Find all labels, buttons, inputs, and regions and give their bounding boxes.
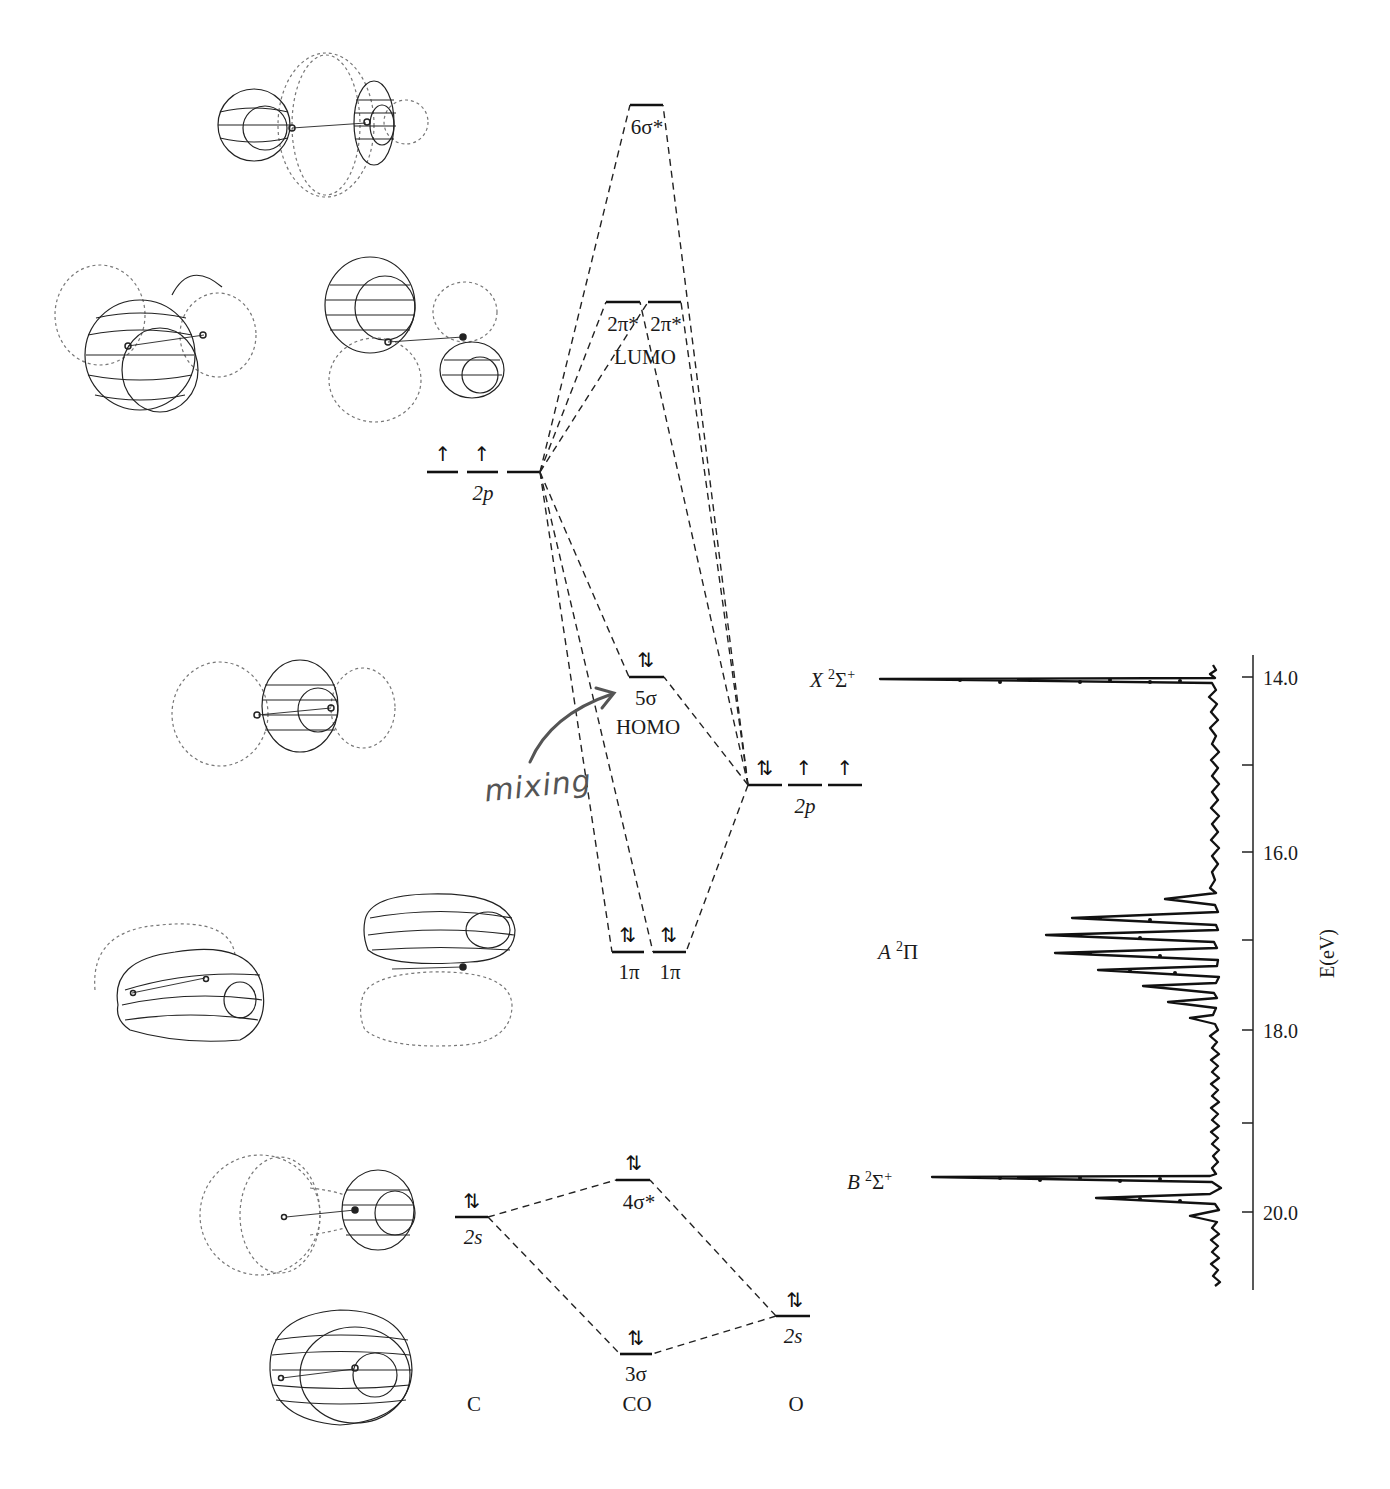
mo-label-1pi-a: 1π [618, 962, 639, 983]
state-parity: + [884, 1169, 892, 1184]
state-term: Σ [872, 1170, 884, 1194]
orbital-3sigma-drawing [270, 1310, 412, 1425]
axis-tick-label: 20.0 [1263, 1203, 1298, 1223]
mo-label-4sigma-star: 4σ* [623, 1192, 655, 1213]
electron-pair-arrow: ⇅ [638, 650, 655, 670]
axis-tick-label: 18.0 [1263, 1021, 1298, 1041]
orbital-1pi-b-drawing [361, 894, 515, 1046]
orbital-2pi-star-b-drawing [325, 257, 504, 422]
ao-label-c-2s: 2s [464, 1227, 483, 1248]
orbital-1pi-a-drawing [95, 924, 264, 1041]
state-label-x: X 2Σ+ [810, 668, 855, 691]
column-label-co: CO [622, 1394, 651, 1415]
photoelectron-spectrum-trace [880, 665, 1221, 1286]
mo-label-5sigma: 5σ [635, 688, 657, 709]
diagram-canvas [0, 0, 1390, 1489]
column-label-c: C [467, 1394, 481, 1415]
electron-pair-arrow: ⇅ [661, 925, 678, 945]
state-symbol: B [847, 1170, 860, 1194]
energy-axis [1242, 655, 1253, 1290]
ao-label-o-2p: 2p [795, 796, 816, 817]
state-parity: + [847, 667, 855, 682]
axis-title: E(eV) [1316, 929, 1339, 978]
mo-label-1pi-b: 1π [659, 962, 680, 983]
electron-up-arrow: ↑ [837, 758, 854, 778]
mo-label-2pi-star-a: 2π* [607, 314, 639, 335]
electron-pair-arrow: ⇅ [787, 1290, 804, 1310]
electron-up-arrow: ↑ [796, 758, 813, 778]
electron-up-arrow: ↑ [435, 444, 452, 464]
state-symbol: X [810, 668, 823, 692]
mo-diagram-figure: 6σ* 2π* 2π* LUMO ↑ ↑ 2p ⇅ 5σ HOMO mixing… [0, 0, 1390, 1489]
state-symbol: A [878, 940, 891, 964]
mixing-arrow [530, 688, 614, 762]
column-label-o: O [788, 1394, 803, 1415]
electron-pair-arrow: ⇅ [464, 1191, 481, 1211]
lumo-label: LUMO [614, 347, 676, 368]
electron-pair-arrow: ⇅ [620, 925, 637, 945]
orbital-2pi-star-a-drawing [55, 265, 256, 412]
ao-label-o-2s: 2s [784, 1326, 803, 1347]
mo-label-6sigma-star: 6σ* [631, 117, 663, 138]
orbital-5sigma-drawing [172, 660, 395, 766]
state-label-b: B 2Σ+ [847, 1170, 892, 1193]
electron-pair-arrow: ⇅ [626, 1153, 643, 1173]
state-label-a: A 2Π [878, 940, 918, 963]
electron-up-arrow: ↑ [474, 444, 491, 464]
axis-tick-label: 14.0 [1263, 668, 1298, 688]
mo-label-2pi-star-b: 2π* [650, 314, 682, 335]
mo-label-3sigma: 3σ [625, 1364, 647, 1385]
orbital-4sigma-star-drawing [200, 1155, 415, 1275]
state-term: Π [903, 940, 918, 964]
homo-label: HOMO [616, 717, 680, 738]
orbital-6sigma-star-drawing [218, 53, 428, 197]
electron-pair-arrow: ⇅ [757, 758, 774, 778]
state-term: Σ [835, 668, 847, 692]
ao-label-c-2p: 2p [473, 483, 494, 504]
axis-tick-label: 16.0 [1263, 843, 1298, 863]
electron-pair-arrow: ⇅ [628, 1328, 645, 1348]
